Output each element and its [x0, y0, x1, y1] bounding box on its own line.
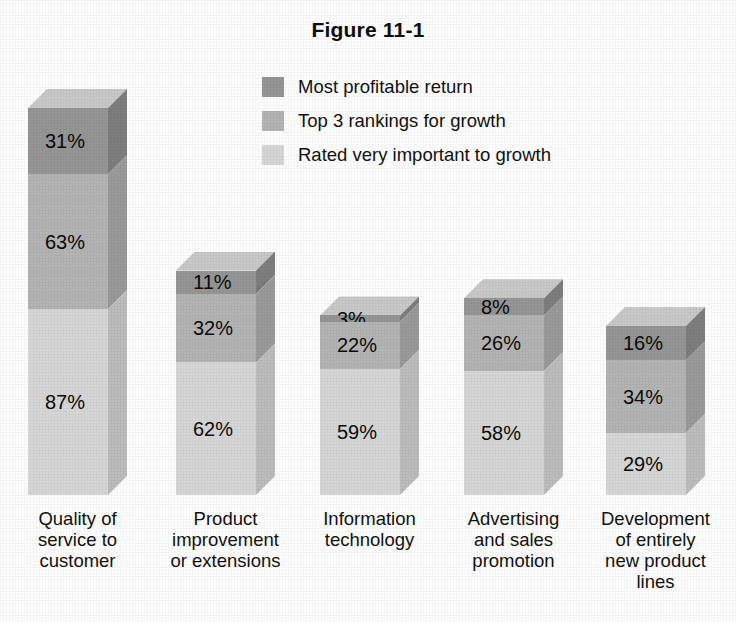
bar-category-label: Advertisingand salespromotion: [442, 508, 585, 571]
bar-category-label-line: Information: [298, 508, 441, 529]
bar-category-label: Developmentof entirelynew productlines: [584, 508, 727, 592]
bar-segment-front-face: 32%: [176, 294, 256, 362]
bar-category-label: Informationtechnology: [298, 508, 441, 550]
bar-category-label-line: lines: [584, 571, 727, 592]
bar-segment-value-label: 63%: [28, 232, 85, 252]
bar-group: 8%26%58%: [464, 279, 563, 495]
bar-segment-value-label: 8%: [464, 297, 510, 317]
bar-segment-front-face: 11%: [176, 271, 256, 295]
bar-category-label: Quality ofservice tocustomer: [6, 508, 149, 571]
bar-segment: 11%: [176, 271, 256, 295]
bar-segment-side-face: [544, 352, 563, 495]
bar-category-label: Productimprovementor extensions: [154, 508, 297, 571]
bar-category-label-line: promotion: [442, 550, 585, 571]
bar-group: 11%32%62%: [176, 252, 275, 495]
bar-segment-front-face: 87%: [28, 309, 108, 495]
bar-segment-value-label: 22%: [320, 335, 377, 355]
bar-segment-front-face: 58%: [464, 371, 544, 495]
bar-segment-value-label: 11%: [176, 272, 232, 292]
bar-segment: 29%: [606, 433, 686, 495]
bar-segment-value-label: 32%: [176, 318, 233, 338]
bar-segment-front-face: 62%: [176, 362, 256, 495]
plot-area: 31%63%87%Quality ofservice tocustomer11%…: [0, 0, 736, 622]
bar-segment-front-face: 29%: [606, 433, 686, 495]
bar-category-label-line: and sales: [442, 529, 585, 550]
bar-segment: 8%: [464, 298, 544, 315]
bar-category-label-line: Product: [154, 508, 297, 529]
bar-segment: 59%: [320, 369, 400, 495]
bar-segment: 62%: [176, 362, 256, 495]
bar-segment-value-label: 34%: [606, 387, 663, 407]
bar-category-label-line: Advertising: [442, 508, 585, 529]
bar-segment-front-face: 31%: [28, 108, 108, 174]
bar-segment-value-label: 29%: [606, 454, 663, 474]
bar-segment-front-face: 16%: [606, 326, 686, 360]
bar-segment-side-face: [256, 343, 275, 495]
bar-segment-value-label: 59%: [320, 422, 377, 442]
bar-segment: 63%: [28, 174, 108, 309]
bar-group: 3%22%59%: [320, 296, 419, 495]
bar-category-label-line: new product: [584, 550, 727, 571]
bar-category-label-line: Development: [584, 508, 727, 529]
bar-category-label-line: customer: [6, 550, 149, 571]
bar-group: 16%34%29%: [606, 307, 705, 495]
bar-segment-value-label: 26%: [464, 333, 521, 353]
bar-segment-side-face: [108, 155, 127, 309]
bar-segment: 31%: [28, 108, 108, 174]
bar-segment: 34%: [606, 360, 686, 433]
bar-segment: 87%: [28, 309, 108, 495]
bar-segment: 58%: [464, 371, 544, 495]
bar-category-label-line: technology: [298, 529, 441, 550]
bar-segment-side-face: [108, 290, 127, 495]
bar-category-label-line: improvement: [154, 529, 297, 550]
figure-11-1-chart: Figure 11-1 Most profitable return Top 3…: [0, 0, 736, 622]
bar-segment-front-face: 22%: [320, 322, 400, 369]
bar-segment-front-face: 8%: [464, 298, 544, 315]
bar-segment-front-face: 26%: [464, 315, 544, 371]
bar-segment-value-label: 62%: [176, 419, 233, 439]
bar-segment-front-face: 59%: [320, 369, 400, 495]
bar-category-label-line: Quality of: [6, 508, 149, 529]
bar-category-label-line: service to: [6, 529, 149, 550]
bar-segment-front-face: 34%: [606, 360, 686, 433]
bar-category-label-line: of entirely: [584, 529, 727, 550]
bar-segment-value-label: 31%: [28, 131, 85, 151]
bar-category-label-line: or extensions: [154, 550, 297, 571]
bar-segment-value-label: 87%: [28, 392, 85, 412]
bar-segment-value-label: 16%: [606, 333, 663, 353]
bar-segment-value-label: 58%: [464, 423, 521, 443]
bar-segment-front-face: 63%: [28, 174, 108, 309]
bar-segment-side-face: [400, 350, 419, 495]
bar-segment: 26%: [464, 315, 544, 371]
bar-segment: 16%: [606, 326, 686, 360]
bar-group: 31%63%87%: [28, 89, 127, 495]
bar-segment: 22%: [320, 322, 400, 369]
bar-segment: 32%: [176, 294, 256, 362]
